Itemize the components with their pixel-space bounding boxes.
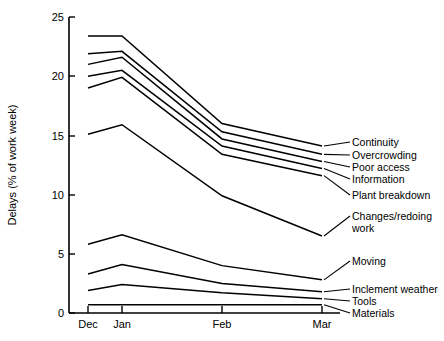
legend-label-information: Information xyxy=(352,174,405,186)
y-tick-label: 5 xyxy=(58,248,64,260)
legend-label-materials: Materials xyxy=(352,308,395,320)
leader-line xyxy=(324,289,350,292)
series-group xyxy=(88,36,322,305)
chart-container: 25 20 15 10 5 0 Delays (% of work week) … xyxy=(0,0,444,341)
x-tick-label-mar: Mar xyxy=(313,318,332,330)
legend-label-continuity: Continuity xyxy=(352,137,399,149)
series-line-moving xyxy=(88,235,322,280)
x-axis-tick-labels: Dec Jan Feb Mar xyxy=(78,318,332,330)
leader-line xyxy=(324,261,350,280)
x-tick-label-dec: Dec xyxy=(78,318,98,330)
y-tick-label: 15 xyxy=(52,130,64,142)
y-tick-label: 10 xyxy=(52,189,64,201)
x-axis-ticks xyxy=(88,306,322,313)
leader-line xyxy=(324,154,350,155)
y-tick-label: 25 xyxy=(52,11,64,23)
y-tick-label: 20 xyxy=(52,70,64,82)
x-tick-label-jan: Jan xyxy=(113,318,131,330)
y-tick-label: 0 xyxy=(58,307,64,319)
leader-line xyxy=(324,299,350,301)
legend-label-overcrowding: Overcrowding xyxy=(352,150,417,162)
leader-line xyxy=(324,305,350,313)
series-line-inclement-weather xyxy=(88,264,322,291)
legend-label-changes-redoing-2: work xyxy=(352,223,374,235)
legend-label-inclement-weather: Inclement weather xyxy=(352,284,438,296)
y-axis-title: Delays (% of work week) xyxy=(6,104,18,225)
leader-line xyxy=(324,216,350,236)
leader-line xyxy=(324,161,350,167)
legend-label-tools: Tools xyxy=(352,296,377,308)
legend-label-changes-redoing: Changes/redoing xyxy=(352,211,432,223)
leader-line xyxy=(324,176,350,195)
y-axis-tick-labels: 25 20 15 10 5 0 xyxy=(52,11,64,319)
legend-label-moving: Moving xyxy=(352,256,386,268)
legend-label-poor-access: Poor access xyxy=(352,162,410,174)
series-line-tools xyxy=(88,285,322,299)
legend-label-plant-breakdown: Plant breakdown xyxy=(352,190,430,202)
leader-line xyxy=(324,142,350,146)
x-tick-label-feb: Feb xyxy=(213,318,232,330)
y-axis-ticks xyxy=(69,17,75,313)
leader-line xyxy=(324,169,350,179)
legend-leader-lines xyxy=(324,142,350,313)
